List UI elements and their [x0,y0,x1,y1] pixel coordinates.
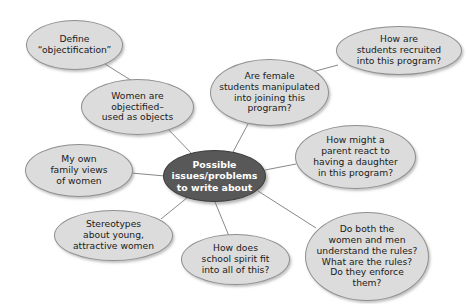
node-label-school-spirit: How does school spirit fit into all of t… [197,243,275,276]
branch-node-my-own-family-views[interactable]: My own family views of women [25,144,133,197]
node-label-students-recruited: How are students recruited into this pro… [352,34,446,67]
node-label-female-students-manipulated: Are female students manipulated into joi… [214,71,325,114]
node-label-women-objectified: Women are objectified– used as objects [97,91,178,124]
edge-stereotypes-to-center [161,197,188,219]
edge-spirit-to-center [215,202,229,236]
branch-node-students-recruited[interactable]: How are students recruited into this pro… [336,26,462,75]
branch-node-female-students-manipulated[interactable]: Are female students manipulated into joi… [210,59,329,126]
edge-female-to-center [233,124,248,152]
branch-node-school-spirit[interactable]: How does school spirit fit into all of t… [181,234,290,285]
node-label-define-objectification: Define “objectification” [33,34,116,56]
edge-parent-to-center [265,164,296,170]
branch-node-stereotypes-young-women[interactable]: Stereotypes about young, attractive wome… [54,210,173,261]
node-label-center: Possible issues/problems to write about [167,159,263,192]
branch-node-define-objectification[interactable]: Define “objectification” [26,20,123,70]
node-label-parent-react: How might a parent react to having a dau… [308,135,403,178]
edge-family-to-center [131,173,165,176]
branch-node-parent-react[interactable]: How might a parent react to having a dau… [295,125,416,189]
edge-rules-to-center [258,191,316,228]
branch-node-women-objectified[interactable]: Women are objectified– used as objects [81,79,194,135]
node-label-understand-rules: Do both the women and men understand the… [312,224,423,289]
center-node-center[interactable]: Possible issues/problems to write about [163,150,266,202]
node-label-stereotypes-young-women: Stereotypes about young, attractive wome… [68,219,159,252]
mind-map-canvas: Define “objectification”Women are object… [0,0,467,304]
branch-node-understand-rules[interactable]: Do both the women and men understand the… [305,212,429,301]
node-label-my-own-family-views: My own family views of women [45,154,112,187]
edge-women-to-center [166,127,193,155]
